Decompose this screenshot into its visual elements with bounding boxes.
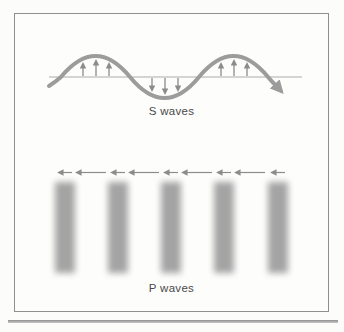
compression-band [268, 182, 288, 273]
s-wave-label: S waves [15, 105, 328, 117]
s-wave-up-arrows-second-crest [221, 61, 247, 76]
p-wave-label: P waves [15, 282, 328, 294]
p-wave-bands [15, 182, 331, 273]
s-wave-up-arrows-first-crest [83, 61, 109, 76]
compression-band [55, 182, 75, 273]
bottom-rule [8, 320, 338, 323]
diagram-frame: S waves P waves [14, 13, 329, 312]
compression-band [108, 182, 128, 273]
compression-band [214, 182, 234, 273]
compression-band [161, 182, 181, 273]
s-wave-down-arrows-trough [152, 78, 178, 93]
page: S waves P waves [0, 0, 344, 332]
